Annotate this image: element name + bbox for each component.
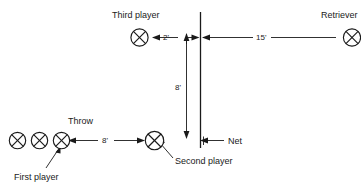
net-label: Net <box>228 136 243 146</box>
diagram-canvas: Third player Retriever Throw First playe… <box>0 0 361 184</box>
net-callout-arrowhead <box>200 138 208 144</box>
eight-feet-arrowhead-top <box>184 33 190 41</box>
player-marker-third-player <box>131 29 148 46</box>
two-feet-arrowhead-right <box>192 35 200 41</box>
first-player-label: First player <box>14 172 59 182</box>
two-feet-arrowhead-left <box>152 35 160 41</box>
eight-feet-horizontal-dimension-label: 8' <box>102 136 108 145</box>
throw-label: Throw <box>68 116 94 126</box>
player-marker-retriever <box>343 29 360 46</box>
third-player-label: Third player <box>112 10 160 20</box>
eight-feet-vertical-dimension-label: 8' <box>175 83 181 92</box>
two-feet-dimension-label: 2' <box>163 33 169 42</box>
player-marker-second-player <box>145 131 163 149</box>
fifteen-feet-dimension-label: 15' <box>256 33 267 42</box>
eight-feet-arrowhead-bottom <box>184 131 190 139</box>
player-marker-first-player <box>53 132 69 148</box>
eight-feet-horizontal-arrowhead-right <box>137 138 145 144</box>
player-marker-queue-2 <box>31 132 47 148</box>
first-player-leader-line <box>46 150 58 168</box>
player-marker-queue-1 <box>9 132 25 148</box>
fifteen-feet-arrowhead-left <box>202 35 210 41</box>
second-player-label: Second player <box>175 156 233 166</box>
retriever-label: Retriever <box>321 10 358 20</box>
court-diagram: Third player Retriever Throw First playe… <box>0 0 361 184</box>
